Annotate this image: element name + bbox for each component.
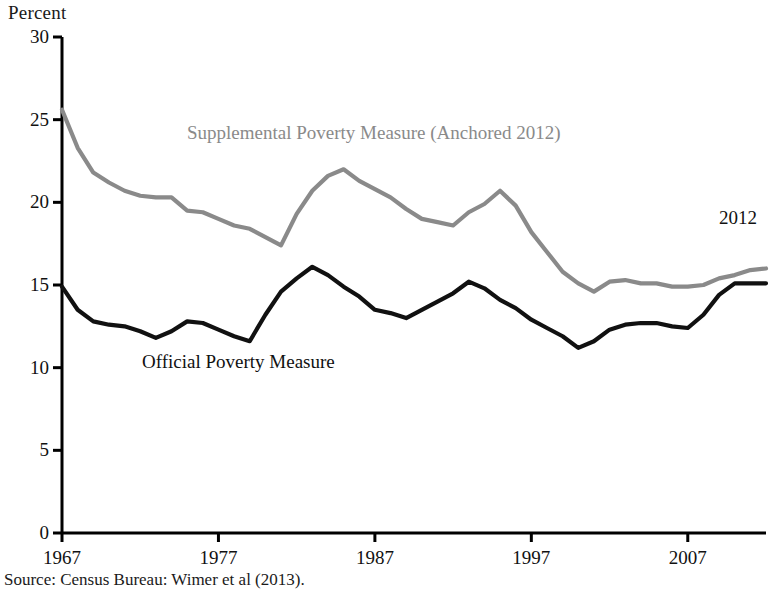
y-tick-label: 0 [5, 522, 49, 544]
y-tick-label: 20 [5, 191, 49, 213]
spm-series-label: Supplemental Poverty Measure (Anchored 2… [187, 122, 561, 144]
x-tick-label: 1977 [178, 547, 258, 569]
y-tick-label: 25 [5, 109, 49, 131]
source-note: Source: Census Bureau: Wimer et al (2013… [4, 570, 305, 590]
y-tick-label: 15 [5, 274, 49, 296]
y-tick-label: 5 [5, 439, 49, 461]
official-series-label: Official Poverty Measure [142, 351, 335, 373]
chart-axes [53, 37, 766, 542]
chart-series [62, 110, 766, 348]
chart-plot-area [0, 0, 781, 595]
y-tick-label: 10 [5, 357, 49, 379]
x-tick-label: 2007 [648, 547, 728, 569]
y-axis-unit-label: Percent [8, 2, 66, 24]
end-year-label: 2012 [719, 207, 757, 229]
x-tick-label: 1997 [491, 547, 571, 569]
y-tick-label: 30 [5, 26, 49, 48]
x-tick-label: 1987 [335, 547, 415, 569]
x-tick-label: 1967 [22, 547, 102, 569]
poverty-rate-chart-figure: Percent 051015202530 1967197719871997200… [0, 0, 781, 595]
